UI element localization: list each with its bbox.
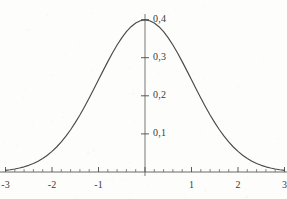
- y-tick-label: 0,2: [153, 89, 166, 100]
- y-tick-label: 0,1: [153, 127, 166, 138]
- x-tick-label: 3: [282, 179, 287, 190]
- x-tick-label: 1: [189, 179, 194, 190]
- y-tick-label: 0,3: [153, 51, 166, 62]
- x-tick-label: -1: [94, 179, 103, 190]
- axis-group: [0, 14, 287, 176]
- plot-canvas: [0, 0, 287, 199]
- normal-distribution-figure: -3-2-1123 0,10,20,30,4: [0, 0, 287, 199]
- x-axis-major-ticks: [6, 167, 285, 172]
- x-tick-label: 2: [235, 179, 240, 190]
- x-tick-label: -3: [1, 179, 10, 190]
- x-tick-label: -2: [48, 179, 57, 190]
- y-tick-label: 0,4: [153, 13, 166, 24]
